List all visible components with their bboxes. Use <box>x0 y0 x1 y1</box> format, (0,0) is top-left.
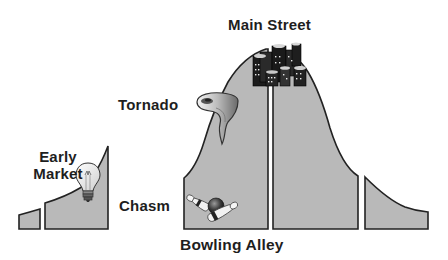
chasm-label: Chasm <box>119 197 170 214</box>
bowling-alley-label: Bowling Alley <box>180 236 284 253</box>
main-street-label: Main Street <box>228 16 311 33</box>
segment-innovators <box>19 209 40 229</box>
early-market-label: Early Market <box>26 148 90 182</box>
segment-laggards <box>365 177 428 229</box>
bell-curve-graphic <box>0 0 448 260</box>
adoption-lifecycle-diagram: Main Street Tornado Early Market Chasm B… <box>0 0 448 260</box>
city-buildings-icon <box>253 43 306 87</box>
early-market-label-line1: Early <box>26 148 90 165</box>
tornado-label: Tornado <box>118 96 178 113</box>
early-market-label-line2: Market <box>26 165 90 182</box>
